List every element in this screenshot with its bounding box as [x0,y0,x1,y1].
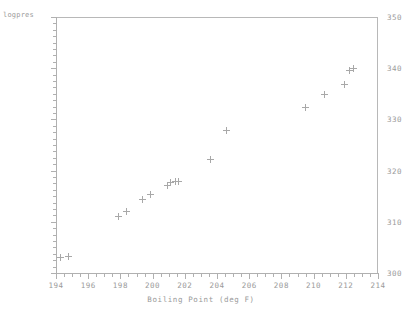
y-axis-minor-tick [53,62,57,63]
y-axis-title: logpres [3,11,34,19]
y-axis-minor-tick [53,235,57,236]
x-axis-minor-tick [306,273,307,277]
plus-marker [139,196,146,203]
y-axis-minor-tick [53,209,57,210]
y-axis-major-tick [51,222,57,223]
y-axis-major-tick [51,171,57,172]
x-axis-minor-tick [338,273,339,277]
x-axis-minor-tick [241,273,242,277]
x-axis-minor-tick [330,273,331,277]
x-axis-minor-tick [201,273,202,277]
y-axis-minor-tick [53,49,57,50]
y-axis-minor-tick [53,215,57,216]
y-axis-minor-tick [53,151,57,152]
plus-marker [115,213,122,220]
x-axis-major-tick [249,273,250,279]
y-axis-minor-tick [53,126,57,127]
x-axis-major-tick [378,273,379,279]
plus-marker [175,178,182,185]
y-axis-minor-tick [53,145,57,146]
x-axis-major-tick [185,273,186,279]
x-axis-minor-tick [104,273,105,277]
x-axis-minor-tick [370,273,371,277]
x-axis-minor-tick [112,273,113,277]
x-axis-major-tick [281,273,282,279]
y-axis-minor-tick [53,183,57,184]
y-axis-minor-tick [53,107,57,108]
y-axis-minor-tick [53,228,57,229]
x-axis-minor-tick [72,273,73,277]
x-axis-major-tick [217,273,218,279]
y-axis-minor-tick [53,190,57,191]
y-axis-tick-label: 350 [354,13,402,22]
x-axis-minor-tick [354,273,355,277]
plus-marker [207,156,214,163]
plus-marker [123,208,130,215]
y-axis-minor-tick [53,139,57,140]
y-axis-major-tick [51,17,57,18]
x-axis-minor-tick [289,273,290,277]
x-axis-minor-tick [169,273,170,277]
y-axis-minor-tick [53,267,57,268]
y-axis-minor-tick [53,94,57,95]
y-axis-minor-tick [53,81,57,82]
y-axis-major-tick [51,119,57,120]
y-axis-minor-tick [53,113,57,114]
y-axis-minor-tick [53,36,57,37]
plus-marker [302,104,309,111]
x-axis-minor-tick [137,273,138,277]
x-axis-major-tick [88,273,89,279]
x-axis-tick-label: 214 [358,281,398,290]
y-axis-minor-tick [53,247,57,248]
plus-marker [147,191,154,198]
x-axis-minor-tick [257,273,258,277]
y-axis-tick-label: 320 [354,167,402,176]
plus-marker [341,81,348,88]
y-axis-minor-tick [53,241,57,242]
y-axis-minor-tick [53,203,57,204]
x-axis-minor-tick [128,273,129,277]
y-axis-minor-tick [53,30,57,31]
x-axis-minor-tick [362,273,363,277]
y-axis-minor-tick [53,55,57,56]
x-axis-major-tick [153,273,154,279]
plot-frame [56,17,378,273]
plus-marker [350,65,357,72]
x-axis-minor-tick [298,273,299,277]
x-axis-minor-tick [145,273,146,277]
x-axis-minor-tick [96,273,97,277]
y-axis-minor-tick [53,100,57,101]
y-axis-minor-tick [53,196,57,197]
plus-marker [57,254,64,261]
x-axis-minor-tick [233,273,234,277]
y-axis-minor-tick [53,177,57,178]
y-axis-minor-tick [53,75,57,76]
y-axis-minor-tick [53,158,57,159]
y-axis-tick-label: 340 [354,64,402,73]
x-axis-major-tick [346,273,347,279]
y-axis-minor-tick [53,164,57,165]
x-axis-major-tick [314,273,315,279]
scatter-plot: logpres 300310320330340350 1941961982002… [0,0,402,316]
x-axis-major-tick [56,273,57,279]
plus-marker [65,253,72,260]
y-axis-minor-tick [53,87,57,88]
x-axis-minor-tick [265,273,266,277]
x-axis-minor-tick [64,273,65,277]
plus-marker [223,127,230,134]
y-axis-tick-label: 330 [354,115,402,124]
y-axis-minor-tick [53,43,57,44]
plus-marker [321,91,328,98]
x-axis-minor-tick [273,273,274,277]
x-axis-minor-tick [177,273,178,277]
y-axis-major-tick [51,68,57,69]
x-axis-major-tick [120,273,121,279]
x-axis-minor-tick [193,273,194,277]
x-axis-title: Boiling Point (deg F) [0,295,402,304]
x-axis-minor-tick [80,273,81,277]
x-axis-minor-tick [161,273,162,277]
x-axis-minor-tick [209,273,210,277]
y-axis-minor-tick [53,132,57,133]
y-axis-minor-tick [53,23,57,24]
x-axis-minor-tick [322,273,323,277]
